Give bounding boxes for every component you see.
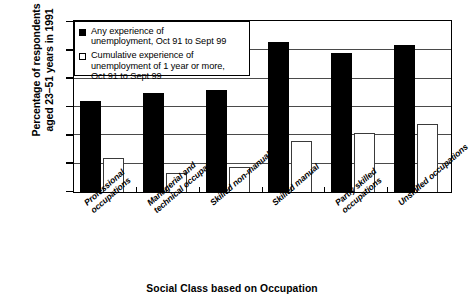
bar-any-experience-3 — [268, 42, 289, 192]
y-axis-tick-mark — [66, 77, 73, 78]
legend-entry-any-experience: Any experience of unemployment, Oct 91 t… — [79, 26, 246, 46]
x-axis-title: Social Class based on Occupation — [0, 283, 464, 294]
filled-square-icon — [79, 29, 86, 36]
bar-any-experience-4 — [331, 53, 352, 192]
x-axis-tick-mark — [387, 187, 388, 192]
x-axis-tick-mark — [262, 187, 263, 192]
y-axis-tick-mark — [66, 162, 73, 163]
x-axis-tick-mark — [324, 187, 325, 192]
y-axis-tick-mark — [66, 49, 73, 50]
bar-any-experience-0 — [80, 101, 101, 192]
chart-legend: Any experience of unemployment, Oct 91 t… — [74, 21, 250, 76]
y-axis-tick-mark — [66, 106, 73, 107]
legend-entry-label: Cumulative experience of unemployment of… — [91, 50, 225, 81]
x-axis-tick-mark — [199, 187, 200, 192]
empty-square-icon — [79, 53, 86, 60]
legend-entry-label: Any experience of unemployment, Oct 91 t… — [91, 26, 226, 46]
y-axis-tick-mark — [66, 134, 73, 135]
y-axis-title: Percentage of respondents aged 23–51 yea… — [30, 0, 64, 166]
legend-entry-cumulative-experience: Cumulative experience of unemployment of… — [79, 50, 246, 81]
x-axis-tick-mark — [136, 187, 137, 192]
y-axis-tick-mark — [66, 21, 73, 22]
y-axis-tick-mark — [66, 191, 73, 192]
